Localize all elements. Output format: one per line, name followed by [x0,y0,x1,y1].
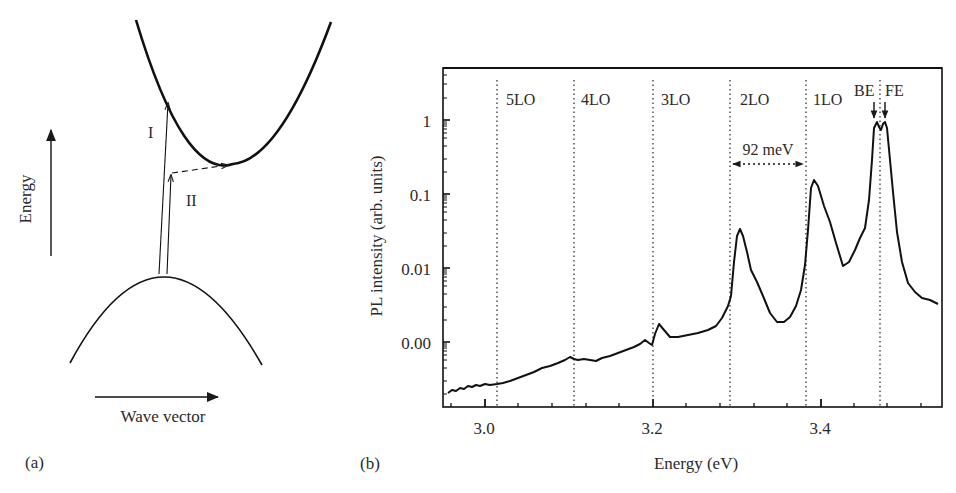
spacing-annotation-label: 92 meV [742,141,794,158]
pl-spectrum-curve [448,122,938,393]
x-tick-label: 3.4 [809,419,831,438]
panel-b: 1 0.1 0.01 0.00 PL intensity (arb. units… [360,68,942,473]
x-tick-label: 3.2 [641,419,662,438]
panel-b-label: (b) [360,454,380,473]
wave-vector-axis-label: Wave vector [121,407,206,426]
fe-label: FE [885,82,904,99]
y-axis-title: PL intensity (arb. units) [367,156,386,317]
figure-canvas: I II Energy Wave vector (a) [0,0,956,493]
4lo-label: 4LO [581,91,610,108]
x-axis-title: Energy (eV) [654,454,738,473]
x-tick-label: 3.0 [473,419,494,438]
y-tick-label: 0.00 [401,334,431,353]
5lo-label: 5LO [506,91,535,108]
2lo-label: 2LO [740,91,769,108]
lo-phonon-lines [497,80,880,406]
transition-II-arrow [167,175,171,274]
y-axis-ticks [443,120,450,342]
3lo-label: 3LO [661,91,690,108]
transition-II-label: II [186,192,197,209]
y-tick-label: 1 [423,112,432,131]
energy-axis-label: Energy [16,174,35,223]
y-tick-label: 0.01 [401,260,431,279]
transition-I-arrow [159,103,168,274]
plot-frame [443,68,942,407]
x-axis-ticks [451,399,921,407]
panel-a: I II Energy Wave vector (a) [16,20,331,472]
be-label: BE [854,82,874,99]
y-tick-label: 0.1 [410,186,431,205]
transition-I-label: I [148,124,153,141]
conduction-band-curve [136,20,331,165]
1lo-label: 1LO [813,91,842,108]
valence-band-curve [70,277,262,365]
panel-a-label: (a) [25,453,44,472]
